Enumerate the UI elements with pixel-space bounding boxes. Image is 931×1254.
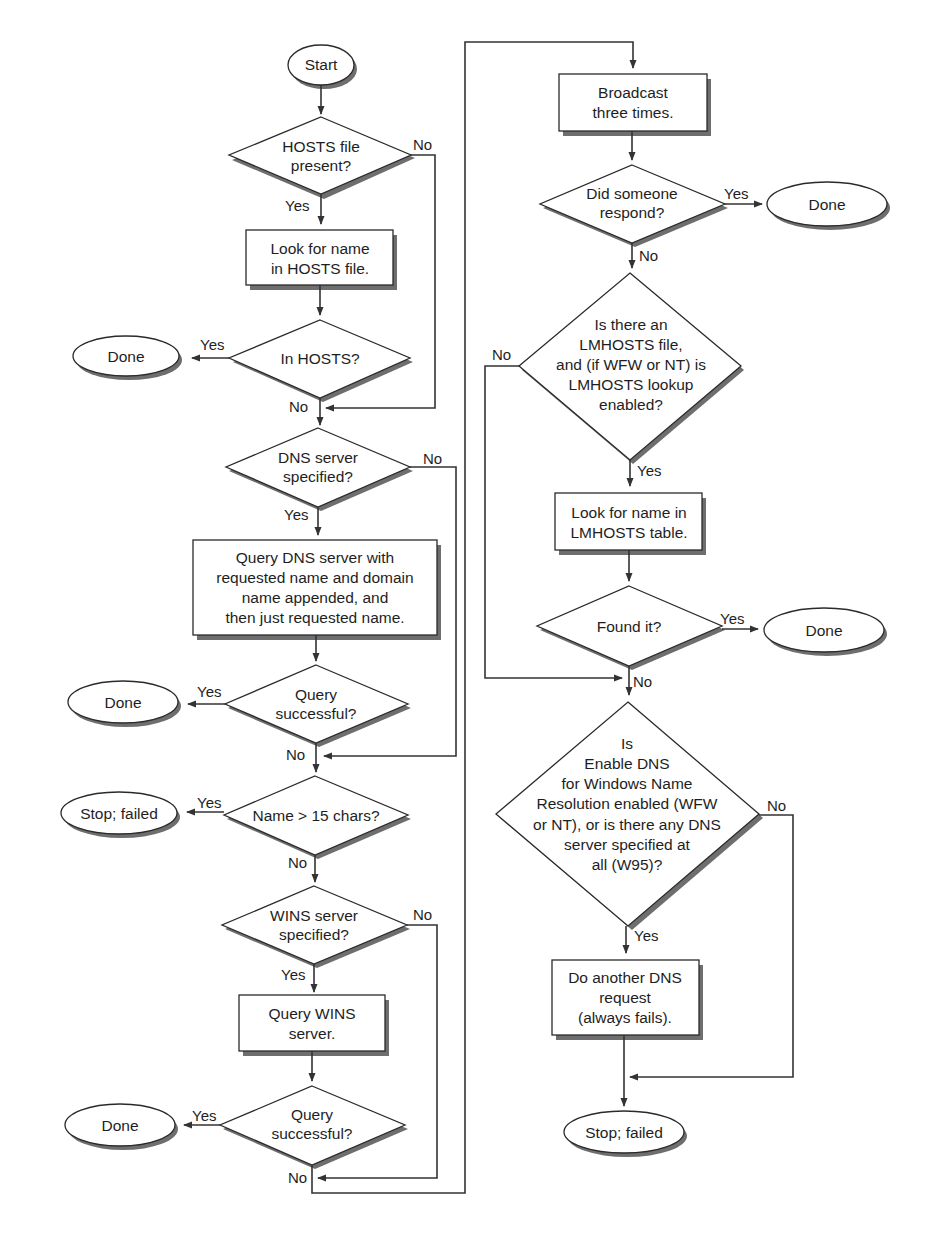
dns-enabled-line-7: all (W95)? bbox=[592, 856, 663, 873]
lmhosts-enabled-line-4: LMHOSTS lookup bbox=[569, 376, 694, 393]
dns-specified-line-1: DNS server bbox=[278, 449, 358, 466]
another-dns-process: Do another DNS request (always fails). bbox=[552, 960, 703, 1040]
wins-success-line-1: Query bbox=[291, 1106, 333, 1123]
stop-2-label: Stop; failed bbox=[585, 1124, 663, 1141]
dns-specified-line-2: specified? bbox=[283, 468, 353, 485]
in-hosts-yes-label: Yes bbox=[200, 336, 224, 353]
lmhosts-enabled-no-label: No bbox=[492, 346, 511, 363]
dns-enabled-line-5: or NT), or is there any DNS bbox=[533, 816, 721, 833]
look-lmhosts-line-2: LMHOSTS table. bbox=[570, 524, 687, 541]
respond-decision: Did someone respond? bbox=[540, 165, 728, 247]
dns-enabled-line-2: Enable DNS bbox=[584, 755, 669, 772]
wins-success-decision: Query successful? bbox=[220, 1086, 408, 1169]
query-dns-line-3: name appended, and bbox=[242, 589, 389, 606]
lmhosts-enabled-yes-label: Yes bbox=[637, 462, 661, 479]
query-dns-line-2: requested name and domain bbox=[216, 569, 413, 586]
hosts-present-line-1: HOSTS file bbox=[282, 138, 360, 155]
query-wins-line-2: server. bbox=[289, 1025, 336, 1042]
done-3-label: Done bbox=[101, 1117, 138, 1134]
look-lmhosts-process: Look for name in LMHOSTS table. bbox=[555, 493, 706, 555]
name-length-yes-label: Yes bbox=[197, 794, 221, 811]
dns-success-line-2: successful? bbox=[276, 705, 357, 722]
lmhosts-enabled-line-2: LMHOSTS file, bbox=[579, 336, 682, 353]
wins-specified-line-2: specified? bbox=[279, 926, 349, 943]
wins-specified-line-1: WINS server bbox=[270, 907, 358, 924]
lmhosts-enabled-decision: Is there an LMHOSTS file, and (if WFW or… bbox=[519, 273, 744, 464]
wins-success-no-label: No bbox=[288, 1169, 307, 1186]
found-yes-label: Yes bbox=[720, 610, 744, 627]
lmhosts-enabled-line-1: Is there an bbox=[594, 316, 667, 333]
done-1-label: Done bbox=[107, 348, 144, 365]
hosts-present-no-label: No bbox=[413, 136, 432, 153]
dns-enabled-decision: Is Enable DNS for Windows Name Resolutio… bbox=[496, 702, 763, 930]
stop-failed-terminator-1: Stop; failed bbox=[61, 792, 180, 838]
start-terminator: Start bbox=[288, 45, 357, 89]
broadcast-process: Broadcast three times. bbox=[559, 74, 711, 136]
wins-success-line-2: successful? bbox=[272, 1125, 353, 1142]
hosts-present-yes-label: Yes bbox=[285, 197, 309, 214]
another-dns-line-3: (always fails). bbox=[578, 1009, 672, 1026]
done-terminator-1: Done bbox=[73, 336, 182, 380]
respond-yes-label: Yes bbox=[724, 185, 748, 202]
flowchart-canvas: Start HOSTS file present? No Yes Look fo… bbox=[0, 0, 931, 1254]
done-2-label: Done bbox=[104, 694, 141, 711]
done-terminator-5: Done bbox=[764, 608, 887, 656]
query-dns-process: Query DNS server with requested name and… bbox=[193, 540, 441, 640]
look-hosts-line-2: in HOSTS file. bbox=[271, 260, 369, 277]
done-4-label: Done bbox=[808, 196, 845, 213]
wins-specified-yes-label: Yes bbox=[281, 966, 305, 983]
stop-failed-terminator-2: Stop; failed bbox=[564, 1111, 687, 1157]
in-hosts-label: In HOSTS? bbox=[280, 350, 360, 367]
wins-specified-decision: WINS server specified? bbox=[222, 886, 410, 968]
wins-specified-no-label: No bbox=[413, 906, 432, 923]
look-hosts-line-1: Look for name bbox=[270, 240, 369, 257]
broadcast-line-1: Broadcast bbox=[598, 84, 668, 101]
broadcast-line-2: three times. bbox=[593, 104, 674, 121]
dns-success-line-1: Query bbox=[295, 686, 337, 703]
dns-specified-no-label: No bbox=[423, 450, 442, 467]
done-5-label: Done bbox=[805, 622, 842, 639]
dns-specified-decision: DNS server specified? bbox=[226, 428, 413, 511]
in-hosts-no-label: No bbox=[289, 398, 308, 415]
found-decision: Found it? bbox=[537, 586, 725, 670]
in-hosts-decision: In HOSTS? bbox=[229, 320, 413, 402]
stop-1-label: Stop; failed bbox=[80, 805, 158, 822]
respond-line-2: respond? bbox=[600, 204, 665, 221]
start-label: Start bbox=[305, 56, 338, 73]
name-length-no-label: No bbox=[288, 854, 307, 871]
done-terminator-2: Done bbox=[68, 681, 181, 727]
respond-line-1: Did someone bbox=[586, 185, 677, 202]
dns-specified-yes-label: Yes bbox=[284, 506, 308, 523]
respond-no-label: No bbox=[639, 247, 658, 264]
found-label: Found it? bbox=[597, 618, 662, 635]
another-dns-line-2: request bbox=[599, 989, 651, 1006]
query-wins-process: Query WINS server. bbox=[239, 995, 389, 1056]
dns-success-decision: Query successful? bbox=[225, 665, 411, 747]
dns-enabled-line-4: Resolution enabled (WFW bbox=[537, 795, 718, 812]
done-terminator-4: Done bbox=[767, 182, 890, 230]
look-hosts-process: Look for name in HOSTS file. bbox=[246, 230, 397, 290]
query-dns-line-4: then just requested name. bbox=[225, 609, 404, 626]
dns-enabled-yes-label: Yes bbox=[634, 927, 658, 944]
query-wins-line-1: Query WINS bbox=[269, 1005, 356, 1022]
query-dns-line-1: Query DNS server with bbox=[236, 549, 394, 566]
dns-success-yes-label: Yes bbox=[197, 683, 221, 700]
dns-enabled-no-label: No bbox=[767, 797, 786, 814]
name-length-decision: Name > 15 chars? bbox=[224, 776, 411, 859]
lmhosts-enabled-line-5: enabled? bbox=[599, 396, 663, 413]
hosts-present-decision: HOSTS file present? bbox=[229, 117, 415, 199]
found-no-label: No bbox=[633, 673, 652, 690]
dns-enabled-line-6: server specified at bbox=[564, 836, 690, 853]
lmhosts-enabled-line-3: and (if WFW or NT) is bbox=[556, 356, 706, 373]
dns-enabled-line-1: Is bbox=[621, 735, 633, 752]
hosts-present-line-2: present? bbox=[291, 157, 352, 174]
done-terminator-3: Done bbox=[65, 1104, 178, 1150]
wins-success-yes-label: Yes bbox=[192, 1107, 216, 1124]
dns-success-no-label: No bbox=[286, 746, 305, 763]
look-lmhosts-line-1: Look for name in bbox=[571, 504, 686, 521]
name-length-label: Name > 15 chars? bbox=[252, 807, 379, 824]
another-dns-line-1: Do another DNS bbox=[568, 969, 682, 986]
dns-enabled-line-3: for Windows Name bbox=[562, 775, 693, 792]
